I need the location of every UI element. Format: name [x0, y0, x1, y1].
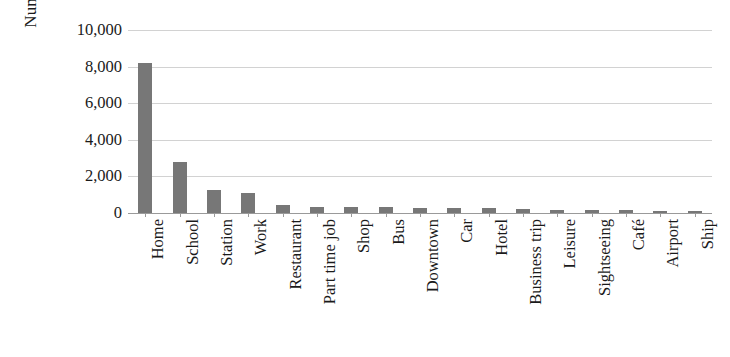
y-axis-title: Number of selections [14, 0, 48, 52]
x-tick-label: Leisure [563, 170, 577, 219]
bar [173, 162, 187, 213]
y-tick-label: 8,000 [56, 59, 122, 75]
bars-layer [128, 30, 712, 213]
x-tick-label-text: Part time job [323, 219, 337, 304]
bar-chart-figure: Number of selections 10,0008,0006,0004,0… [0, 0, 730, 357]
x-tick-label-text: Café [632, 219, 646, 250]
x-tick-label: Shop [357, 185, 371, 219]
y-tick-label: 4,000 [56, 132, 122, 148]
x-tick-label: Airport [666, 170, 680, 219]
y-tick-label: 6,000 [56, 95, 122, 111]
x-tick-label: Home [151, 179, 165, 219]
x-tick-label: Work [254, 183, 268, 219]
x-tick-label: Downtown [426, 146, 440, 219]
x-tick-label-text: Hotel [495, 219, 509, 256]
x-tick-mark [592, 213, 593, 217]
x-tick-label: Bus [392, 193, 406, 219]
x-tick-mark [660, 213, 661, 217]
x-tick-mark [248, 213, 249, 217]
x-tick-label: Ship [701, 189, 715, 219]
x-tick-mark [351, 213, 352, 217]
bar-slot [368, 30, 402, 213]
bar-slot [609, 30, 643, 213]
x-tick-label: Business trip [529, 133, 543, 219]
x-tick-label: Sightseeing [598, 142, 612, 219]
x-tick-label: Hotel [495, 182, 509, 219]
bar-slot [437, 30, 471, 213]
bar-slot [678, 30, 712, 213]
bar [207, 190, 221, 213]
y-tick-label: 10,000 [56, 22, 122, 38]
x-axis-tick-labels: HomeSchoolStationWorkRestaurantPart time… [128, 219, 712, 354]
x-tick-label: Café [632, 188, 646, 219]
x-tick-mark [386, 213, 387, 217]
x-tick-label-text: Leisure [563, 219, 577, 268]
x-tick-label-text: Airport [666, 219, 680, 268]
y-axis-tick-labels: 10,0008,0006,0004,0002,0000 [56, 22, 122, 222]
x-tick-label: Restaurant [289, 148, 303, 219]
x-tick-label-text: Sightseeing [598, 219, 612, 296]
x-tick-label-text: Work [254, 219, 268, 255]
x-tick-mark [626, 213, 627, 217]
x-tick-label-text: Shop [357, 219, 371, 253]
x-tick-mark [489, 213, 490, 217]
x-tick-label-text: Station [220, 219, 234, 266]
x-tick-label: Car [460, 195, 474, 219]
x-tick-mark [695, 213, 696, 217]
x-tick-mark [557, 213, 558, 217]
x-tick-label-text: Downtown [426, 219, 440, 292]
x-tick-mark [214, 213, 215, 217]
x-tick-mark [145, 213, 146, 217]
x-tick-label: Part time job [323, 134, 337, 219]
x-tick-label-text: School [186, 219, 200, 265]
x-tick-label-text: Car [460, 219, 474, 243]
x-tick-mark [180, 213, 181, 217]
bar [276, 205, 290, 213]
x-tick-label-text: Bus [392, 219, 406, 245]
x-tick-mark [317, 213, 318, 217]
x-tick-label: School [186, 173, 200, 219]
y-tick-label: 0 [56, 205, 122, 221]
x-tick-label-text: Ship [701, 219, 715, 249]
x-tick-label-text: Home [151, 219, 165, 259]
x-tick-label-text: Business trip [529, 219, 543, 305]
x-tick-mark [420, 213, 421, 217]
x-tick-mark [454, 213, 455, 217]
y-tick-label: 2,000 [56, 168, 122, 184]
x-tick-mark [523, 213, 524, 217]
x-tick-label-text: Restaurant [289, 219, 303, 290]
x-tick-label: Station [220, 172, 234, 219]
x-tick-mark [283, 213, 284, 217]
